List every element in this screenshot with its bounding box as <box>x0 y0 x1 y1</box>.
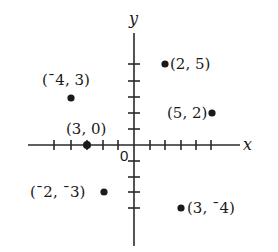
point-2-5: (2, 5) <box>161 55 210 73</box>
svg-text:(3, 0): (3, 0) <box>66 120 106 138</box>
svg-text:(¯2, ¯3): (¯2, ¯3) <box>30 183 85 201</box>
svg-text:(3, ¯4): (3, ¯4) <box>187 199 235 217</box>
origin-label: 0 <box>120 147 128 164</box>
point-neg4-3: (¯4, 3) <box>42 71 90 102</box>
point-neg2-neg3: (¯2, ¯3) <box>30 183 108 201</box>
svg-text:(¯4, 3): (¯4, 3) <box>42 71 90 89</box>
coordinate-plane: y x 0 (2, 5) (¯4, 3) (5, 2) (3, 0) (¯2, … <box>0 0 278 252</box>
svg-text:(5, 2): (5, 2) <box>167 104 207 122</box>
svg-text:(2, 5): (2, 5) <box>170 55 210 73</box>
y-axis-label: y <box>128 9 139 28</box>
x-axis-label: x <box>243 135 252 154</box>
point-5-2: (5, 2) <box>167 104 216 122</box>
point-3-neg4: (3, ¯4) <box>177 199 234 217</box>
